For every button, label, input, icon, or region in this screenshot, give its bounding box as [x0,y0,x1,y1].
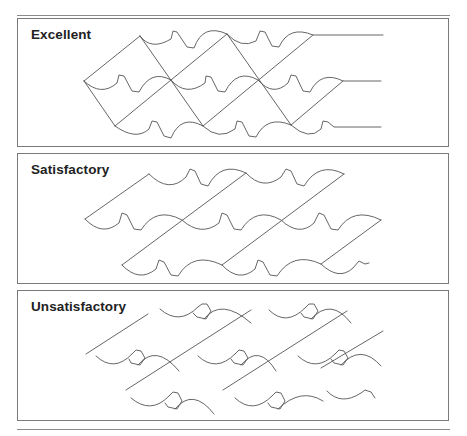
broken-arc [96,354,132,364]
broken-arc [138,355,179,371]
top-rule [17,15,450,16]
diagonal-line [291,81,343,125]
excellent-diagram [18,19,450,148]
broken-arc [278,396,323,409]
diagonal-line [321,331,383,368]
wave-row [140,31,383,48]
wave-row [84,75,381,92]
broken-arc [235,396,272,406]
broken-arc [175,399,214,414]
broken-arc [268,392,285,409]
broken-arc [193,304,211,319]
diagonal-line [126,310,251,390]
diagonal-line [84,36,140,81]
broken-arc [269,308,305,318]
broken-arc [131,396,169,406]
wave-row [115,121,381,138]
diagonal-line [85,174,149,219]
diagonal-line [122,173,246,265]
broken-arc [241,355,276,371]
bottom-rule [17,429,450,430]
wave-row [149,169,344,186]
wave-row [122,260,369,276]
broken-arc [198,354,235,364]
panel-unsatisfactory: Unsatisfactory [17,290,449,421]
broken-arc [129,350,145,365]
broken-arc [165,392,182,409]
panel-satisfactory: Satisfactory [17,153,449,284]
broken-arc [301,304,318,319]
panel-excellent: Excellent [17,18,449,147]
diagonal-line [86,314,148,354]
broken-arc [160,307,198,317]
unsatisfactory-diagram [18,291,450,422]
broken-arc [231,350,248,365]
broken-arc [331,350,348,365]
diagonal-line [222,174,344,265]
wave-row [85,213,381,230]
broken-arc [327,390,375,399]
satisfactory-diagram [18,154,450,285]
